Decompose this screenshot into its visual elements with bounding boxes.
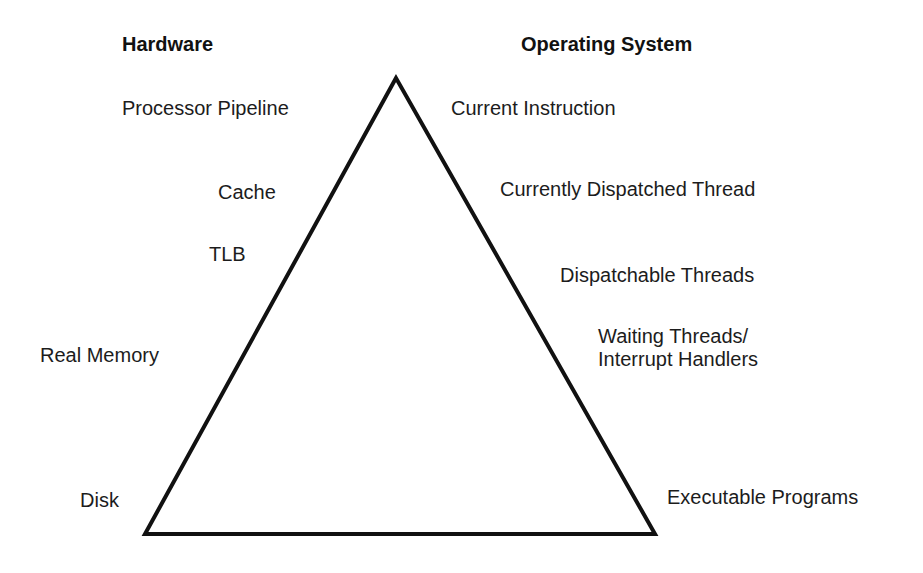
os-level-waiting-threads: Waiting Threads/ Interrupt Handlers [598,325,758,371]
memory-hierarchy-diagram: Hardware Operating System Processor Pipe… [0,0,923,573]
hardware-level-cache: Cache [218,180,276,204]
os-level-current-instruction: Current Instruction [451,96,616,120]
os-heading: Operating System [521,32,692,56]
hardware-level-processor-pipeline: Processor Pipeline [122,96,289,120]
os-level-currently-dispatched-thread: Currently Dispatched Thread [500,177,755,201]
hardware-level-disk: Disk [80,488,119,512]
os-level-waiting-threads-line1: Waiting Threads/ [598,325,758,348]
hardware-level-real-memory: Real Memory [40,343,159,367]
hardware-level-tlb: TLB [209,242,246,266]
os-level-dispatchable-threads: Dispatchable Threads [560,263,754,287]
hardware-heading: Hardware [122,32,213,56]
triangle-shape [145,78,655,534]
os-level-executable-programs: Executable Programs [667,485,858,509]
os-level-waiting-threads-line2: Interrupt Handlers [598,348,758,371]
